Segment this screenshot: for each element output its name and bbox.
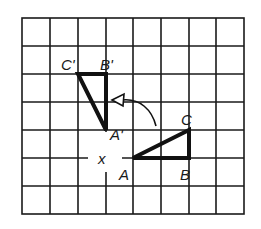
- rotation-arrow-icon: [112, 94, 156, 126]
- label-a-prime: A': [109, 126, 124, 143]
- label-c-prime: C': [61, 56, 76, 73]
- label-x-center: x: [97, 150, 106, 167]
- label-a: A: [118, 166, 129, 183]
- rotation-diagram: C' B' A' C x A B: [0, 0, 261, 229]
- grid: [22, 18, 244, 214]
- label-c: C: [181, 111, 192, 128]
- label-b: B: [180, 166, 190, 183]
- label-b-prime: B': [100, 56, 114, 73]
